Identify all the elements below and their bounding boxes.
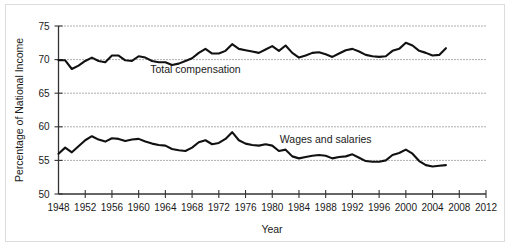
x-tick-label-2000: 2000: [395, 202, 418, 213]
x-tick-label-1960: 1960: [128, 202, 151, 213]
chart-screenshot: 505560657075 194819521956196019641968197…: [0, 0, 511, 251]
annotation-total-compensation: Total compensation: [150, 63, 241, 75]
y-tick-label-70: 70: [38, 54, 50, 65]
x-tick-label-1992: 1992: [341, 202, 364, 213]
y-axis-title: Percentage of National Income: [13, 38, 25, 182]
x-tick-labels: 1948195219561960196419681972197619801984…: [47, 202, 497, 213]
series-line-wages-and-salaries: [59, 132, 446, 166]
x-tick-label-1952: 1952: [74, 202, 97, 213]
x-tick-label-1964: 1964: [154, 202, 177, 213]
y-tick-label-75: 75: [38, 21, 50, 32]
x-axis-title: Year: [261, 223, 283, 235]
x-tick-label-1972: 1972: [208, 202, 231, 213]
x-tick-label-1976: 1976: [234, 202, 257, 213]
annotation-wages-and-salaries: Wages and salaries: [280, 133, 372, 145]
y-tick-label-60: 60: [38, 121, 50, 132]
x-tick-label-1980: 1980: [261, 202, 284, 213]
y-tick-label-55: 55: [38, 155, 50, 166]
x-tick-label-1988: 1988: [315, 202, 338, 213]
x-tick-label-2008: 2008: [448, 202, 471, 213]
x-tick-label-2004: 2004: [421, 202, 444, 213]
chart-frame: 505560657075 194819521956196019641968197…: [5, 4, 505, 242]
x-tick-label-1968: 1968: [181, 202, 204, 213]
x-tick-label-1984: 1984: [288, 202, 311, 213]
x-tick-label-1948: 1948: [47, 202, 70, 213]
data-series: [59, 43, 446, 167]
x-tick-label-1996: 1996: [368, 202, 391, 213]
y-tick-labels: 505560657075: [38, 21, 50, 200]
series-line-total-compensation: [59, 43, 446, 69]
series-annotations: Total compensationWages and salaries: [150, 63, 371, 145]
y-tick-label-50: 50: [38, 189, 50, 200]
line-chart: 505560657075 194819521956196019641968197…: [6, 5, 506, 243]
x-tick-label-2012: 2012: [475, 202, 498, 213]
y-tick-label-65: 65: [38, 88, 50, 99]
x-tick-label-1956: 1956: [101, 202, 124, 213]
